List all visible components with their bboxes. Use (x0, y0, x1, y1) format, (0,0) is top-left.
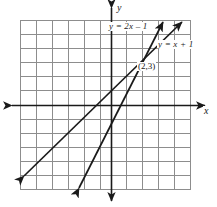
y-axis-label: y (116, 3, 122, 13)
intersection-point-label: (2,3) (137, 62, 156, 71)
line2-equation-label: y = x + 1 (157, 40, 194, 49)
coordinate-plot (0, 0, 217, 207)
x-axis-label: x (203, 106, 209, 116)
line1-equation-label: y = 2x – 1 (108, 22, 149, 31)
graph-figure: y = 2x – 1 y = x + 1 (2,3) y x (0, 0, 217, 207)
